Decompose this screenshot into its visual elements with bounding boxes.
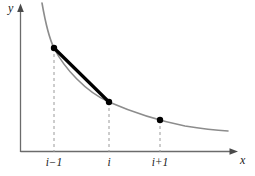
tick-label-i-minus-1: i−1 [46,157,63,169]
axes-group [17,4,238,155]
y-axis-arrow-head [17,4,24,13]
x-axis-arrow-head [230,148,239,155]
y-axis-label: y [8,2,13,14]
figure-container: y x i−1 i i+1 [0,0,255,176]
data-point-markers [51,45,163,123]
plot-canvas [0,0,255,176]
data-point-i-plus-1 [157,117,163,123]
convex-curve [42,3,228,131]
data-point-i-minus-1 [51,45,57,51]
data-point-i [106,99,112,105]
tick-label-i: i [107,157,110,169]
x-axis-label: x [240,154,245,166]
tick-label-i-plus-1: i+1 [152,157,169,169]
chord-secant-line [54,48,109,102]
